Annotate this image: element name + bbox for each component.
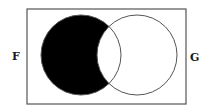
- set-g-label: G: [190, 51, 199, 64]
- set-f-label: F: [12, 50, 20, 63]
- venn-diagram: F G: [0, 0, 209, 109]
